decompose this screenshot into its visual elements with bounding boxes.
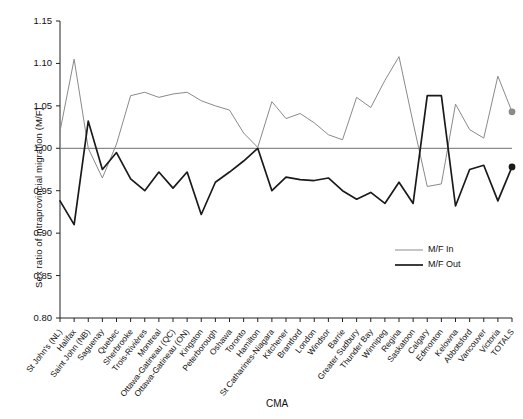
legend-label-mf-in: M/F In: [428, 244, 454, 254]
chart-container: Sex ratio of intraprovincial migration (…: [0, 0, 523, 419]
legend-label-mf-out: M/F Out: [428, 259, 461, 269]
plot-area: [0, 0, 523, 419]
x-axis-title: CMA: [266, 398, 288, 409]
